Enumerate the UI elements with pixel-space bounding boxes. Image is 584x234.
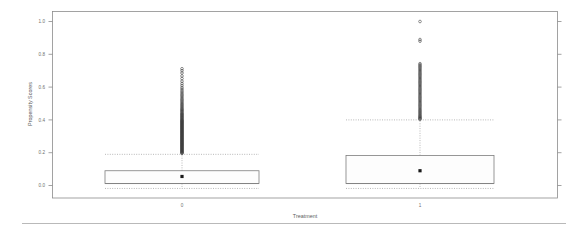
outlier-point-0-105 <box>181 77 184 80</box>
y-axis-ticks-right <box>558 22 562 186</box>
outlier-point-1-53 <box>419 38 422 41</box>
x-axis-title: Treatment <box>293 213 318 219</box>
ytick-label-5: 0.2 <box>39 150 46 155</box>
ytick-label-6: 0.0 <box>39 183 46 188</box>
boxplot-figure: 1.0 0.8 0.6 0.4 0.2 0.0 Propensity Score… <box>0 0 584 234</box>
ytick-label-4: 0.4 <box>39 118 46 123</box>
mean-marker-0 <box>180 175 183 178</box>
y-axis-ticks-left <box>49 22 53 186</box>
boxplot-svg: 1.0 0.8 0.6 0.4 0.2 0.0 Propensity Score… <box>0 0 584 234</box>
ytick-label-1: 1.0 <box>39 19 46 24</box>
box-groups-layer <box>105 20 494 188</box>
outlier-point-0-106 <box>181 75 184 78</box>
box-group-0 <box>105 67 259 188</box>
outlier-point-1-54 <box>419 20 422 23</box>
y-axis-title: Propensity Scores <box>27 82 33 126</box>
ytick-label-2: 0.8 <box>39 52 46 57</box>
ytick-label-3: 0.6 <box>39 85 46 90</box>
box-group-1 <box>346 20 494 188</box>
outlier-point-0-109 <box>181 67 184 70</box>
xtick-label-0: 0 <box>181 203 184 208</box>
xtick-label-1: 1 <box>419 203 422 208</box>
mean-marker-1 <box>418 169 421 172</box>
